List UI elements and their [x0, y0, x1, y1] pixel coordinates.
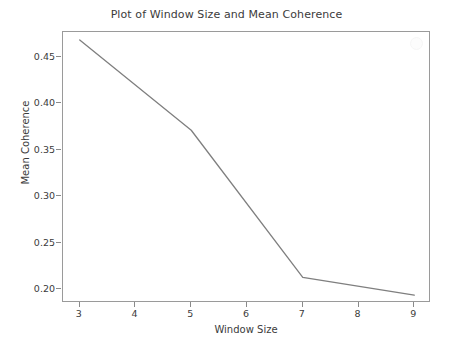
x-tick-mark	[190, 302, 191, 307]
y-tick-mark	[56, 242, 61, 243]
x-tick-mark	[134, 302, 135, 307]
x-tick-label: 8	[354, 308, 360, 319]
y-tick-mark	[56, 149, 61, 150]
plot-area	[62, 31, 430, 302]
x-tick-label: 5	[187, 308, 193, 319]
corner-artifact	[410, 37, 423, 50]
x-axis-tick-labels: 3456789	[62, 308, 430, 322]
x-axis-label: Window Size	[62, 324, 430, 335]
x-tick-mark	[413, 302, 414, 307]
line-series-svg	[63, 32, 431, 303]
x-tick-mark	[358, 302, 359, 307]
x-tick-mark	[79, 302, 80, 307]
y-tick-mark	[56, 102, 61, 103]
x-tick-label: 3	[76, 308, 82, 319]
x-tick-label: 4	[131, 308, 137, 319]
y-tick-mark	[56, 288, 61, 289]
chart-figure: Plot of Window Size and Mean Coherence M…	[0, 0, 453, 354]
x-tick-label: 6	[243, 308, 249, 319]
y-tick-mark	[56, 195, 61, 196]
x-tick-mark	[302, 302, 303, 307]
mean-coherence-line	[80, 40, 415, 295]
y-axis-tick-marks	[0, 31, 62, 302]
chart-title: Plot of Window Size and Mean Coherence	[0, 8, 453, 21]
x-tick-label: 7	[299, 308, 305, 319]
y-tick-mark	[56, 56, 61, 57]
x-tick-mark	[246, 302, 247, 307]
x-tick-label: 9	[410, 308, 416, 319]
